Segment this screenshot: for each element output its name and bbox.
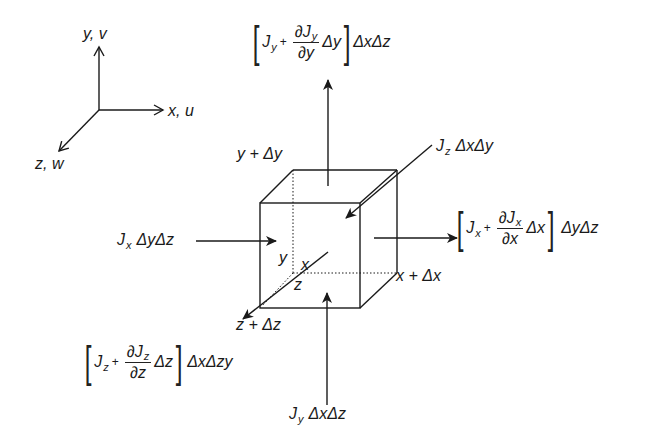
flux-symbol: J (117, 231, 125, 249)
right-bracket: ] (344, 20, 351, 64)
left-bracket: [ (85, 340, 92, 384)
origin-x-label: x (301, 257, 309, 273)
delta-term: Δz (154, 353, 173, 371)
flux-symbol: J (466, 219, 474, 237)
area-term: ΔxΔy (456, 137, 493, 155)
area-term: ΔxΔzy (187, 353, 232, 371)
bottom-inflow-label: Jy ΔxΔz (289, 405, 346, 423)
left-bracket: [ (253, 20, 260, 64)
back-inflow-label: Jz ΔxΔy (436, 137, 493, 155)
back-in-arrow (346, 145, 432, 218)
flux-subscript: y (298, 413, 304, 425)
z-axis-arrow (59, 110, 99, 151)
plus-sign: + (112, 355, 119, 369)
area-term: ΔyΔz (137, 231, 174, 249)
left-inflow-label: Jx ΔyΔz (117, 231, 174, 249)
flux-subscript: y (271, 41, 277, 53)
origin-z-label: z (294, 277, 302, 293)
area-term: ΔxΔz (353, 33, 390, 51)
flux-symbol: J (289, 405, 297, 423)
delta-term: Δx (526, 219, 545, 237)
plus-sign: + (484, 221, 491, 235)
front-outflow-equation: [ Jz + ∂Jz ∂z Δz ] ΔxΔzy (82, 340, 233, 384)
area-term: ΔyΔz (561, 219, 598, 237)
partial-derivative: ∂Jz ∂z (125, 343, 151, 382)
front-face-label: z + Δz (236, 317, 281, 333)
area-term: ΔxΔz (309, 405, 346, 423)
delta-term: Δy (322, 33, 341, 51)
control-volume-cube (260, 170, 397, 308)
flux-symbol: J (94, 353, 102, 371)
origin-y-label: y (279, 250, 287, 266)
top-face-label: y + Δy (237, 146, 282, 162)
flux-symbol: J (436, 137, 444, 155)
flux-subscript: x (126, 239, 132, 251)
coordinate-axes (59, 47, 163, 151)
partial-derivative: ∂Jx ∂x (497, 209, 523, 248)
plus-sign: + (280, 35, 287, 49)
top-outflow-equation: [ Jy + ∂Jy ∂y Δy ] ΔxΔz (250, 20, 391, 64)
z-axis-label: z, w (35, 156, 63, 172)
flux-subscript: x (475, 227, 481, 239)
right-bracket: ] (176, 340, 183, 384)
flux-symbol: J (262, 33, 270, 51)
y-axis-label: y, v (83, 26, 107, 42)
flux-arrows (196, 80, 457, 405)
flux-subscript: z (103, 361, 109, 373)
flux-subscript: z (445, 145, 451, 157)
x-axis-label: x, u (168, 103, 194, 119)
partial-derivative: ∂Jy ∂y (293, 23, 319, 62)
right-bracket: ] (548, 206, 555, 250)
right-outflow-equation: [ Jx + ∂Jx ∂x Δx ] ΔyΔz (454, 206, 599, 250)
left-bracket: [ (457, 206, 464, 250)
cube-front-face (260, 203, 360, 308)
right-face-label: x + Δx (396, 268, 441, 284)
